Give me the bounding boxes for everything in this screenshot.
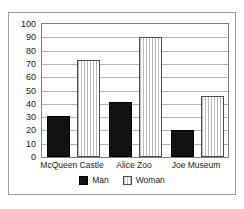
gridline: [42, 51, 228, 52]
y-tick-label: 0: [31, 153, 36, 162]
y-axis: 0102030405060708090100: [9, 23, 39, 158]
gridline: [42, 37, 228, 38]
bar-woman-2: [201, 96, 224, 157]
chart-legend: ManWoman: [9, 175, 235, 185]
bar-woman-0: [77, 60, 100, 157]
legend-swatch-man-icon: [79, 176, 88, 185]
gridline: [42, 64, 228, 65]
legend-item-woman[interactable]: Woman: [123, 175, 165, 185]
bar-man-2: [171, 130, 194, 157]
y-tick-label: 30: [26, 113, 36, 122]
x-tick-label: Joe Museum: [172, 160, 221, 171]
bar-man-1: [109, 102, 132, 157]
y-tick-label: 60: [26, 73, 36, 82]
y-tick-label: 90: [26, 33, 36, 42]
plot-area: [41, 23, 229, 158]
chart-frame: 0102030405060708090100 McQueen CastleAli…: [8, 12, 236, 195]
legend-label: Man: [92, 175, 109, 185]
legend-item-man[interactable]: Man: [79, 175, 109, 185]
x-tick-label: McQueen Castle: [40, 160, 103, 171]
y-tick-label: 70: [26, 59, 36, 68]
bar-man-0: [47, 116, 70, 157]
y-tick-label: 80: [26, 46, 36, 55]
gridline: [42, 91, 228, 92]
legend-swatch-woman-icon: [123, 176, 132, 185]
x-tick-label: Alice Zoo: [116, 160, 151, 171]
y-tick-label: 10: [26, 139, 36, 148]
y-tick-label: 100: [21, 20, 36, 29]
legend-label: Woman: [136, 175, 165, 185]
gridline: [42, 77, 228, 78]
y-tick-label: 20: [26, 126, 36, 135]
bar-woman-1: [139, 37, 162, 157]
x-axis: McQueen CastleAlice ZooJoe Museum: [41, 160, 229, 174]
y-tick-label: 50: [26, 86, 36, 95]
y-tick-label: 40: [26, 99, 36, 108]
